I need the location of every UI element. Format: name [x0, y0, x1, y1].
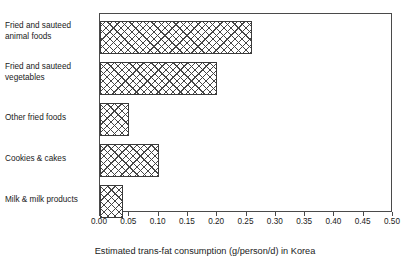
- x-tick-mark: [363, 212, 364, 216]
- x-tick-mark: [216, 212, 217, 216]
- plot-area: [99, 13, 392, 212]
- x-tick-mark: [128, 212, 129, 216]
- category-label: Cookies & cakes: [5, 154, 95, 165]
- category-label: Fried and sauteed animal foods: [5, 21, 95, 42]
- x-tick-mark: [99, 212, 100, 216]
- x-tick-mark: [275, 212, 276, 216]
- bar-4: [100, 185, 123, 218]
- x-tick-mark: [246, 212, 247, 216]
- x-tick-mark: [333, 212, 334, 216]
- bar-3: [100, 144, 159, 177]
- bar-1: [100, 62, 217, 95]
- bar-chart: Fried and sauteed animal foods Fried and…: [0, 0, 410, 271]
- category-label: Other fried foods: [5, 113, 95, 124]
- x-tick-mark: [392, 212, 393, 216]
- category-label: Milk & milk products: [5, 195, 95, 206]
- x-tick-mark: [304, 212, 305, 216]
- x-tick-label: 0.50: [372, 217, 410, 226]
- bar-2: [100, 103, 129, 136]
- x-axis-title: Estimated trans-fat consumption (g/perso…: [0, 246, 410, 256]
- x-tick-mark: [158, 212, 159, 216]
- category-label: Fried and sauteed vegetables: [5, 62, 95, 83]
- bar-0: [100, 21, 252, 54]
- x-tick-mark: [187, 212, 188, 216]
